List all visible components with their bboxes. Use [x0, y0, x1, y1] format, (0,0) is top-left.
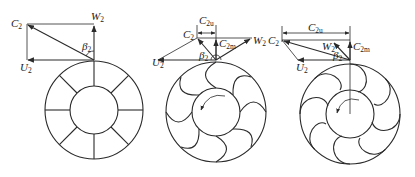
impeller-radial	[45, 61, 143, 159]
velocity-triangle-2: C2u C2 C2m W2 U2 β2	[152, 14, 266, 70]
velocity-triangle-1: C2 W2 U2 β2	[11, 10, 104, 75]
label-c2: C2	[11, 17, 22, 31]
rotation-arrow-icon	[201, 95, 225, 110]
rotation-arrow-icon	[337, 99, 359, 113]
panel-radial-impeller: C2 W2 U2 β2	[11, 10, 143, 159]
label-w2: W2	[253, 34, 266, 48]
label-beta2: β2	[81, 40, 91, 54]
label-w2: W2	[91, 10, 104, 24]
hub	[70, 86, 118, 134]
label-c2: C2	[183, 28, 194, 42]
label-c2m: C2m	[353, 40, 370, 54]
label-u2: U2	[20, 61, 32, 75]
velocity-triangle-3: C2u C2 W2 C2m U2 β2	[268, 21, 370, 114]
label-c2: C2	[268, 34, 279, 48]
label-beta2: β2	[198, 49, 208, 63]
impeller-velocity-triangle-diagram: C2 W2 U2 β2	[0, 0, 415, 177]
impeller-forward-curved	[166, 62, 266, 162]
label-c2m: C2m	[219, 37, 236, 51]
panel-strong-forward-impeller: C2u C2 W2 C2m U2 β2	[268, 21, 400, 164]
panel-forward-curved-impeller: C2u C2 C2m W2 U2 β2	[152, 14, 266, 162]
label-u2: U2	[296, 61, 308, 75]
label-c2u: C2u	[308, 21, 323, 35]
label-c2u: C2u	[199, 14, 214, 28]
